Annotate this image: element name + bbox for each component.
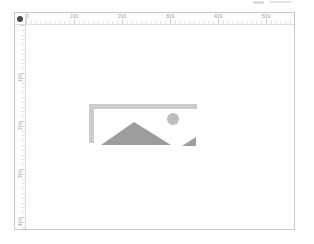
ruler-label: 400: [15, 217, 25, 227]
cropped-ui-fragment: [269, 1, 292, 3]
artboard: 0 100 200 300 400 500 100 200 300 400: [14, 12, 295, 230]
placeholder-frame-top-icon: [89, 104, 197, 109]
torn-corner-icon: [182, 137, 196, 146]
screen: 0 100 200 300 400 500 100 200 300 400: [0, 0, 314, 244]
ruler-label: 0: [26, 13, 33, 21]
broken-image-placeholder[interactable]: [89, 104, 199, 149]
mountain-icon: [101, 122, 171, 145]
ruler-label: 200: [15, 121, 25, 131]
horizontal-ruler[interactable]: 0 100 200 300 400 500: [26, 13, 294, 25]
ruler-origin-icon: [17, 16, 23, 22]
ruler-label: 500: [260, 13, 272, 21]
ruler-label: 200: [116, 13, 128, 21]
ruler-label: 100: [68, 13, 80, 21]
ruler-label: 300: [164, 13, 176, 21]
sun-icon: [167, 113, 179, 125]
ruler-label: 300: [15, 169, 25, 179]
ruler-origin-corner[interactable]: [15, 13, 26, 25]
ruler-label: 400: [212, 13, 224, 21]
vertical-ruler[interactable]: 100 200 300 400: [15, 25, 26, 229]
ruler-label: 100: [15, 73, 25, 83]
cropped-ui-fragment: [253, 1, 264, 4]
placeholder-frame-left-icon: [89, 104, 94, 143]
